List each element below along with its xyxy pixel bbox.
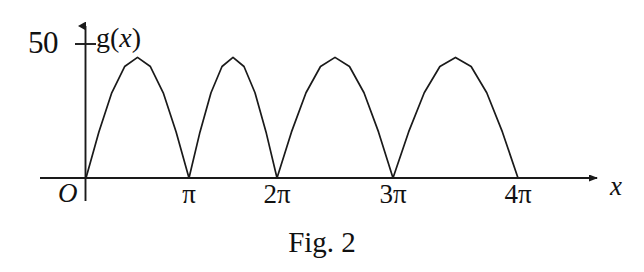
x-tick-label-4pi: 4π	[504, 181, 531, 208]
function-label: g(x)	[96, 24, 141, 52]
y-axis-tick-label: 50	[28, 27, 58, 58]
function-label-open: g(	[96, 22, 119, 53]
origin-label: O	[58, 180, 78, 207]
function-curve	[86, 57, 518, 178]
x-tick-label-2pi: 2π	[263, 181, 290, 208]
x-axis-name: x	[610, 173, 622, 200]
x-tick-label-pi: π	[182, 181, 196, 208]
figure-container: 50 g(x) O π 2π 3π 4π x Fig. 2	[0, 0, 644, 272]
x-tick-label-3pi: 3π	[379, 181, 406, 208]
function-label-variable: x	[119, 22, 131, 53]
figure-caption: Fig. 2	[0, 228, 644, 257]
function-label-close: )	[132, 22, 141, 53]
